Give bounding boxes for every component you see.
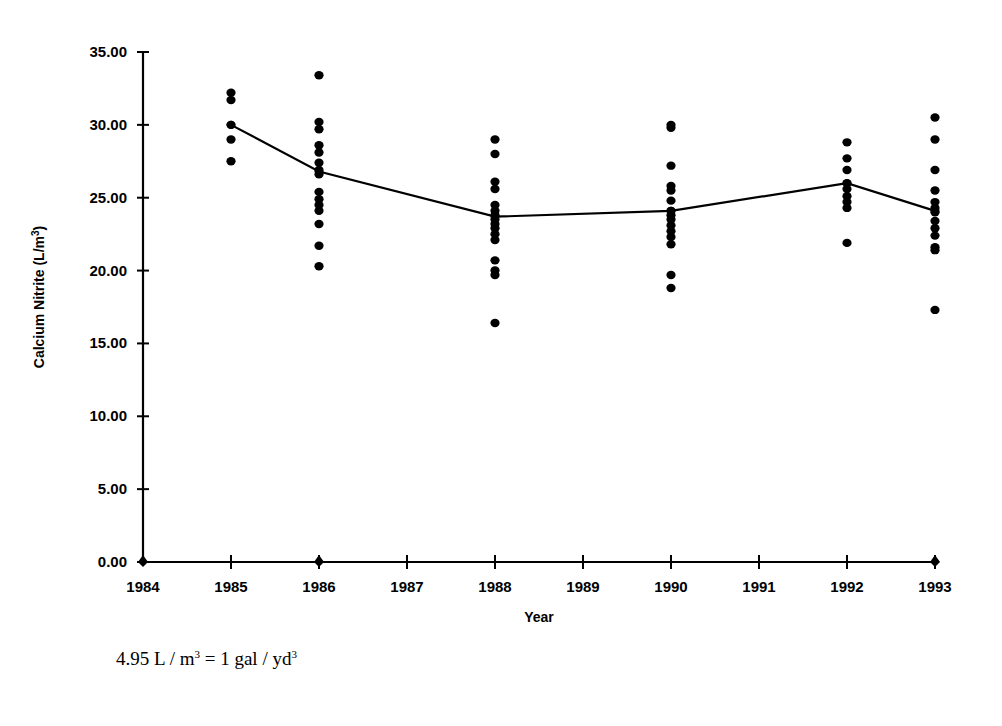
mean-trend-line	[231, 125, 935, 217]
data-point	[930, 224, 939, 232]
y-axis-ticks: 0.005.0010.0015.0020.0025.0030.0035.00	[89, 43, 149, 570]
data-point	[930, 135, 939, 143]
x-tick-label: 1988	[478, 578, 511, 595]
data-point	[314, 71, 323, 79]
footnote-superscript-2: 3	[291, 648, 297, 660]
y-axis-title-suffix: )	[31, 226, 47, 231]
data-point	[666, 161, 675, 169]
data-point	[930, 217, 939, 225]
mean-line-vertex	[843, 179, 852, 187]
data-point	[842, 154, 851, 162]
x-tick-label: 1985	[214, 578, 247, 595]
mean-line-vertex	[227, 121, 236, 129]
data-point	[314, 148, 323, 156]
data-point	[490, 256, 499, 264]
x-tick-label: 1987	[390, 578, 423, 595]
data-point	[314, 220, 323, 228]
x-tick-label: 1986	[302, 578, 335, 595]
data-point	[490, 271, 499, 279]
footnote-middle: = 1 gal / yd	[200, 648, 291, 669]
data-point	[842, 239, 851, 247]
unit-conversion-footnote: 4.95 L / m3 = 1 gal / yd3	[116, 648, 297, 670]
data-point	[842, 204, 851, 212]
scatter-line-chart: 0.005.0010.0015.0020.0025.0030.0035.00 1…	[0, 0, 1002, 726]
data-point	[666, 196, 675, 204]
data-point	[314, 242, 323, 250]
y-tick-label: 20.00	[89, 262, 127, 279]
y-tick-label: 0.00	[98, 553, 127, 570]
data-point	[930, 186, 939, 194]
data-point	[490, 177, 499, 185]
data-point	[314, 159, 323, 167]
y-tick-label: 35.00	[89, 43, 127, 60]
data-point	[842, 138, 851, 146]
x-tick-label: 1992	[830, 578, 863, 595]
data-point	[666, 284, 675, 292]
data-point	[226, 96, 235, 104]
mean-line-vertex	[667, 207, 676, 215]
data-point	[666, 124, 675, 132]
chart-figure: 0.005.0010.0015.0020.0025.0030.0035.00 1…	[0, 0, 1002, 726]
data-point	[314, 118, 323, 126]
data-point	[490, 135, 499, 143]
footnote-prefix: 4.95 L / m	[116, 648, 194, 669]
x-tick-label: 1993	[918, 578, 951, 595]
mean-line-vertex	[315, 167, 324, 175]
data-point	[666, 233, 675, 241]
y-tick-label: 10.00	[89, 407, 127, 424]
x-tick-label: 1984	[126, 578, 160, 595]
mean-line-vertex	[931, 207, 940, 215]
data-point	[930, 231, 939, 239]
data-point	[666, 186, 675, 194]
data-point	[930, 306, 939, 314]
data-point	[314, 125, 323, 133]
data-point	[930, 113, 939, 121]
x-tick-label: 1989	[566, 578, 599, 595]
data-point	[490, 319, 499, 327]
y-tick-label: 5.00	[98, 480, 127, 497]
axis-zero-marker	[138, 555, 148, 567]
axis-zero-marker	[930, 555, 940, 567]
mean-line-vertex	[491, 213, 500, 221]
data-point	[226, 135, 235, 143]
data-point	[314, 188, 323, 196]
data-point	[314, 207, 323, 215]
axis-zero-marker	[314, 555, 324, 567]
data-point	[490, 236, 499, 244]
y-tick-label: 30.00	[89, 116, 127, 133]
axes-layer	[137, 52, 935, 562]
x-tick-label: 1990	[654, 578, 687, 595]
data-point	[226, 157, 235, 165]
y-tick-label: 25.00	[89, 189, 127, 206]
data-series-layer	[138, 71, 940, 567]
data-point	[930, 166, 939, 174]
data-point	[226, 89, 235, 97]
data-point	[314, 262, 323, 270]
data-point	[666, 240, 675, 248]
data-point	[490, 150, 499, 158]
data-point	[490, 185, 499, 193]
data-point	[930, 246, 939, 254]
data-point	[842, 166, 851, 174]
y-axis-title-text: Calcium Nitrite (L/m	[31, 236, 47, 368]
data-point	[666, 271, 675, 279]
y-tick-label: 15.00	[89, 334, 127, 351]
y-axis-title: Calcium Nitrite (L/m3)	[30, 226, 47, 368]
x-tick-label: 1991	[742, 578, 775, 595]
data-point	[314, 141, 323, 149]
x-axis-title: Year	[524, 609, 554, 625]
